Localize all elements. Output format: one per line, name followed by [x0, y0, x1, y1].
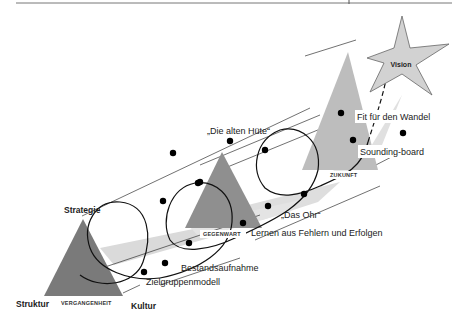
vision-label: Vision [391, 61, 412, 68]
corner-struktur: Struktur [16, 299, 50, 309]
annotation-bestandsaufnahme: Bestandsaufnahme [181, 263, 259, 273]
corner-strategie: Strategie [64, 205, 101, 215]
triangle-gegenwart [185, 152, 262, 228]
annotation-lernen: Lernen aus Fehlern und Erfolgen [251, 228, 383, 238]
annotation-fit-fuer-den-wandel: Fit für den Wandel [357, 112, 430, 122]
annotation-das-ohr: „Das Ohr“ [281, 210, 321, 220]
star-icon [367, 16, 449, 95]
annotation-zielgruppenmodell: Zielgruppenmodell [146, 277, 220, 287]
phase-zukunft: ZUKUNFT [330, 172, 358, 178]
phase-gegenwart: GEGENWART [203, 231, 241, 237]
phase-vergangenheit: VERGANGENHEIT [61, 300, 112, 306]
annotation-die-alten-huete: „Die alten Hüte“ [207, 126, 270, 136]
corner-kultur: Kultur [131, 301, 157, 311]
change-process-diagram: Vision Strategie Struktur Kultur VERGANG… [0, 0, 466, 322]
annotation-sounding-board: Sounding-board [360, 147, 424, 157]
